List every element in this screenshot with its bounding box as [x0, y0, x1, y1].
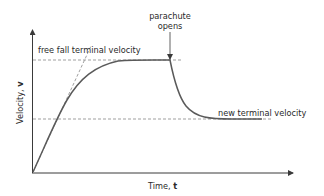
parachute-opens-label-line1: parachute	[149, 11, 191, 21]
x-axis-symbol: t	[173, 181, 177, 191]
velocity-time-diagram: free fall terminal velocity parachute op…	[0, 0, 324, 196]
free-fall-terminal-velocity-label: free fall terminal velocity	[38, 45, 141, 55]
new-terminal-velocity-label: new terminal velocity	[218, 108, 306, 118]
parachute-opens-label-line2: opens	[158, 21, 183, 31]
x-axis-label-text: Time,	[147, 181, 173, 191]
x-axis-label: Time, t	[147, 181, 177, 191]
y-axis-symbol: v	[15, 81, 25, 87]
y-axis-label: Velocity, v	[15, 81, 25, 124]
y-axis-label-text: Velocity,	[15, 87, 25, 124]
